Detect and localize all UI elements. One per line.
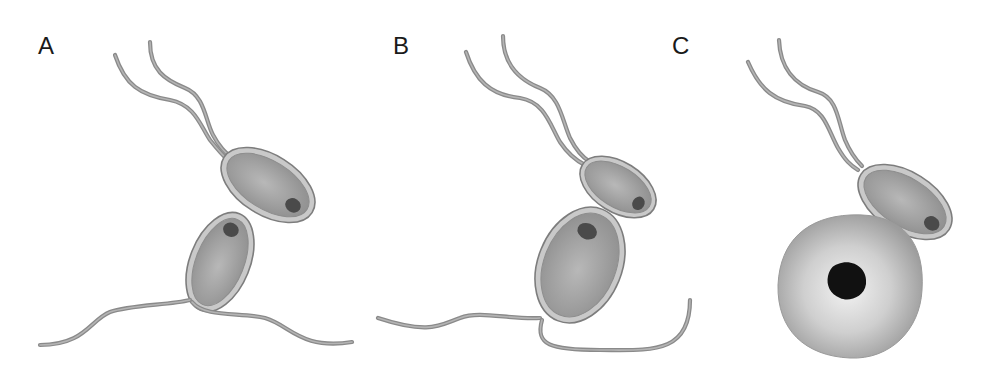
panel-c — [748, 40, 965, 358]
upper-cell-flagella-a — [115, 42, 232, 160]
lower-cell-flagella-a — [40, 300, 352, 345]
flagellated-cell-flagella-c — [748, 40, 862, 170]
lower-cell-flagella-b — [378, 300, 690, 350]
round-cell-c — [778, 215, 922, 358]
figure-canvas — [0, 0, 997, 371]
panel-a — [40, 42, 352, 345]
panel-b — [378, 36, 690, 350]
lower-cell-a — [173, 203, 268, 322]
upper-cell-flagella-b — [466, 36, 590, 165]
